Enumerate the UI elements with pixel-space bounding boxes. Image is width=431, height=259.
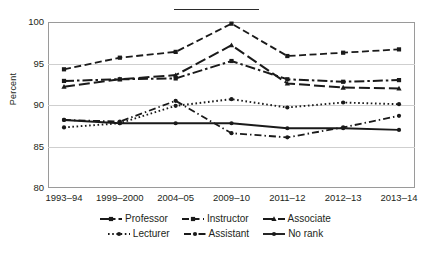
legend-label: Professor	[125, 213, 168, 225]
x-tick-label: 2004–05	[157, 192, 194, 204]
y-tick-95: 95	[14, 59, 44, 69]
legend-item-no-rank[interactable]: No rank	[263, 228, 323, 240]
legend-swatch	[182, 214, 204, 224]
x-tick-label: 2012–13	[325, 192, 362, 204]
data-point-marker	[62, 125, 66, 129]
data-point-marker	[285, 135, 289, 139]
x-tick-label: 1999–2000	[96, 192, 144, 204]
data-point-marker	[118, 56, 122, 60]
legend-item-associate[interactable]: Associate	[263, 213, 331, 225]
x-tick-label: 2013–14	[381, 192, 418, 204]
chart-legend: ProfessorInstructorAssociateLecturerAssi…	[0, 211, 431, 241]
legend-item-instructor[interactable]: Instructor	[182, 213, 249, 225]
data-point-marker	[174, 50, 178, 54]
series-associate	[61, 43, 401, 91]
data-point-marker	[192, 231, 196, 235]
data-point-marker	[341, 80, 345, 84]
top-rule-decoration	[174, 9, 259, 10]
data-point-marker	[191, 216, 195, 220]
series-no-rank	[62, 118, 401, 132]
y-tick-85: 85	[14, 142, 44, 152]
series-line	[64, 61, 399, 82]
data-point-marker	[397, 47, 401, 51]
x-tick-label: 1993–94	[46, 192, 83, 204]
legend-label: Assistant	[209, 228, 250, 240]
data-point-marker	[341, 51, 345, 55]
data-point-marker	[285, 54, 289, 58]
legend-swatch	[263, 214, 285, 224]
data-point-marker	[229, 22, 233, 26]
data-point-marker	[272, 231, 276, 235]
plot-area	[48, 22, 415, 188]
data-point-marker	[397, 102, 401, 106]
data-point-marker	[109, 216, 113, 220]
chart-figure: Percent 80859095100 1993–941999–20002004…	[0, 0, 431, 259]
data-point-marker	[118, 121, 122, 125]
legend-item-lecturer[interactable]: Lecturer	[108, 228, 170, 240]
data-point-marker	[229, 43, 234, 48]
data-point-marker	[174, 104, 178, 108]
legend-item-professor[interactable]: Professor	[100, 213, 168, 225]
legend-row: ProfessorInstructorAssociate	[0, 211, 431, 226]
legend-label: Lecturer	[133, 228, 170, 240]
legend-label: Instructor	[207, 213, 249, 225]
legend-swatch	[108, 229, 130, 239]
data-point-marker	[62, 118, 66, 122]
y-tick-100: 100	[14, 17, 44, 27]
data-point-marker	[174, 121, 178, 125]
series-assistant	[62, 99, 401, 140]
data-point-marker	[285, 126, 289, 130]
data-point-marker	[285, 105, 289, 109]
data-point-marker	[341, 100, 345, 104]
legend-row: LecturerAssistantNo rank	[0, 226, 431, 241]
data-point-marker	[62, 67, 66, 71]
data-point-marker	[229, 131, 233, 135]
y-tick-90: 90	[14, 100, 44, 110]
data-point-marker	[229, 121, 233, 125]
data-point-marker	[62, 79, 66, 83]
data-point-marker	[229, 97, 233, 101]
data-point-marker	[341, 126, 345, 130]
data-point-marker	[397, 78, 401, 82]
legend-swatch	[100, 214, 122, 224]
legend-label: No rank	[288, 228, 323, 240]
y-tick-80: 80	[14, 183, 44, 193]
legend-swatch	[184, 229, 206, 239]
data-point-marker	[397, 114, 401, 118]
legend-label: Associate	[288, 213, 331, 225]
data-point-marker	[229, 59, 233, 63]
x-axis-tick-labels: 1993–941999–20002004–052009–102011–12201…	[48, 192, 415, 206]
x-tick-label: 2011–12	[269, 192, 305, 204]
data-point-marker	[397, 128, 401, 132]
data-point-marker	[117, 231, 121, 235]
series-layer	[48, 22, 415, 188]
series-line	[64, 45, 399, 88]
legend-item-assistant[interactable]: Assistant	[184, 228, 250, 240]
legend-swatch	[263, 229, 285, 239]
x-tick-label: 2009–10	[213, 192, 250, 204]
data-point-marker	[174, 99, 178, 103]
